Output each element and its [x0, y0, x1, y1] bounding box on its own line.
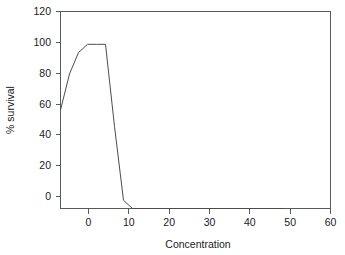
x-tick-label: 20: [163, 216, 175, 228]
x-tick-label: 0: [86, 216, 92, 228]
y-tick-label: 100: [33, 36, 51, 48]
x-tick-label: 50: [284, 216, 296, 228]
y-tick-label: 40: [39, 128, 51, 140]
y-tick-label: 120: [33, 5, 51, 17]
line-chart-svg: 0 20 40 60 80 100 120 0 10 20 30 40 50 6…: [0, 0, 345, 255]
x-tick-label: 10: [123, 216, 135, 228]
chart-figure: 0 20 40 60 80 100 120 0 10 20 30 40 50 6…: [0, 0, 345, 255]
y-tick-label: 80: [39, 67, 51, 79]
x-tick-label: 30: [204, 216, 216, 228]
x-tick-label: 40: [244, 216, 256, 228]
x-tick-label: 60: [325, 216, 337, 228]
y-tick-label: 60: [39, 98, 51, 110]
x-axis-title: Concentration: [165, 238, 231, 250]
y-tick-label: 20: [39, 159, 51, 171]
y-axis-title: % survival: [4, 86, 16, 134]
y-tick-label: 0: [45, 190, 51, 202]
